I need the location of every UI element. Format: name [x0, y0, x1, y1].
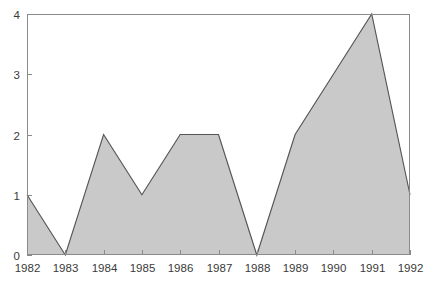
- area-chart: 01234 1982198319841985198619871988198919…: [0, 0, 434, 288]
- y-tick-label: 2: [14, 130, 20, 142]
- y-tick-label: 4: [14, 9, 21, 21]
- y-tick-label: 0: [14, 250, 20, 262]
- x-tick-label: 1984: [92, 262, 118, 274]
- x-tick-label: 1983: [53, 262, 79, 274]
- chart-canvas: 01234 1982198319841985198619871988198919…: [0, 0, 434, 288]
- y-tick-label: 3: [14, 69, 20, 81]
- y-tick-label: 1: [14, 190, 20, 202]
- x-axis-tick-labels: 1982198319841985198619871988198919901991…: [15, 262, 424, 274]
- x-tick-label: 1985: [130, 262, 156, 274]
- x-tick-label: 1987: [207, 262, 233, 274]
- y-axis-tick-labels: 01234: [14, 9, 21, 262]
- x-tick-label: 1991: [360, 262, 386, 274]
- x-tick-label: 1982: [15, 262, 41, 274]
- x-tick-label: 1989: [283, 262, 309, 274]
- x-tick-label: 1988: [245, 262, 271, 274]
- x-tick-label: 1992: [398, 262, 424, 274]
- x-tick-label: 1990: [321, 262, 347, 274]
- x-tick-label: 1986: [168, 262, 194, 274]
